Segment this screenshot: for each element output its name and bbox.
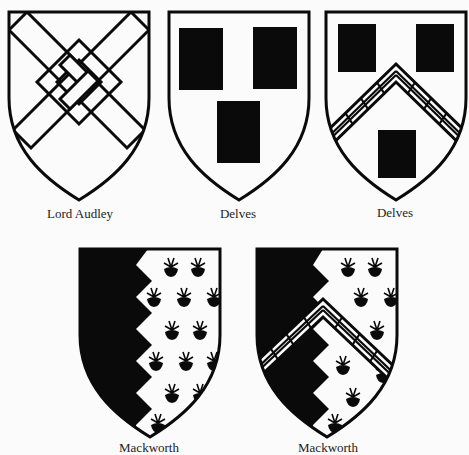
shield-label: Mackworth <box>119 440 179 455</box>
shield-delves <box>165 8 313 204</box>
shield-delves-chevron <box>322 8 469 204</box>
shield-label: Delves <box>377 205 413 221</box>
shield-mackworth <box>76 245 224 441</box>
shield-label: Lord Audley <box>47 206 113 222</box>
shield-label: Delves <box>220 206 256 222</box>
shield-lord-audley <box>5 8 153 204</box>
shield-label: Mackworth <box>298 440 358 455</box>
shield-mackworth-chevron <box>253 245 401 441</box>
